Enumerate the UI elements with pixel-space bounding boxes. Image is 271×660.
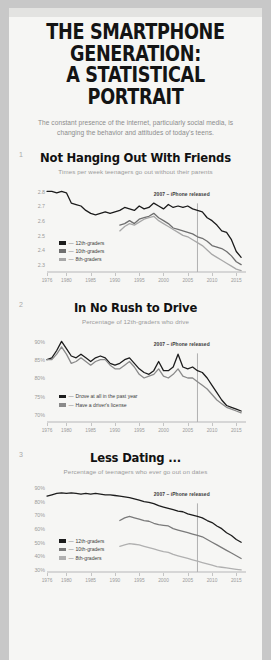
legend-label: 10th-graders: [76, 247, 105, 255]
x-tick-mark: [188, 573, 189, 576]
legend-swatch-icon: [59, 403, 66, 407]
chart-section-2: 2 In No Rush to Drive Percentage of 12th…: [9, 301, 262, 438]
section-number-1: 1: [19, 151, 23, 158]
legend-dash-icon: —: [68, 545, 73, 553]
chart-legend: —Drove at all in the past year—Have a dr…: [59, 392, 138, 409]
chart-title-3: Less Dating ...: [17, 451, 254, 465]
section-number-3: 3: [19, 451, 23, 458]
legend-item: —10th-graders: [59, 545, 104, 553]
y-tick-label: 80%: [34, 375, 45, 381]
legend-dash-icon: —: [68, 537, 73, 545]
x-tick-label: 2000: [158, 578, 169, 583]
legend-swatch-icon: [59, 249, 66, 253]
x-tick-mark: [212, 273, 213, 276]
legend-swatch-icon: [59, 548, 66, 552]
x-tick-mark: [163, 423, 164, 426]
legend-label: Drove at all in the past year: [76, 392, 138, 400]
legend-item: —10th-graders: [59, 247, 104, 255]
y-axis-3: 90%80%70%60%50%40%30%: [17, 484, 45, 572]
x-tick-label: 1995: [134, 428, 145, 433]
y-tick-label: 70%: [34, 512, 45, 518]
legend-dash-icon: —: [68, 392, 73, 400]
x-tick-label: 1995: [134, 578, 145, 583]
x-tick-label: 1980: [61, 278, 72, 283]
x-tick-mark: [212, 573, 213, 576]
chart-canvas-1: 2007 – iPhone released—12th-graders—10th…: [47, 184, 246, 272]
chart-plot-area-1: 2.82.72.62.52.42.3 2007 – iPhone release…: [17, 184, 254, 288]
y-tick-label: 2.4: [38, 247, 45, 253]
chart-subtitle-2: Percentage of 12th-graders who drive: [17, 318, 254, 325]
x-tick-label: 1985: [85, 278, 96, 283]
x-tick-mark: [188, 423, 189, 426]
x-tick-label: 1980: [61, 428, 72, 433]
y-tick-label: 2.6: [38, 218, 45, 224]
x-tick-mark: [91, 573, 92, 576]
chart-legend: —12th-graders—10th-graders—8th-graders: [59, 537, 104, 562]
chart-plot-area-2: 90%85%80%75%70% 2007 – iPhone released—D…: [17, 334, 254, 438]
page-title: THE SMARTPHONE GENERATION: A STATISTICAL…: [35, 22, 235, 109]
y-tick-label: 60%: [34, 526, 45, 532]
x-tick-label: 1976: [42, 578, 53, 583]
x-tick-mark: [139, 273, 140, 276]
x-tick-mark: [47, 573, 48, 576]
legend-swatch-icon: [59, 241, 66, 245]
x-tick-mark: [188, 273, 189, 276]
y-tick-label: 40%: [34, 553, 45, 559]
page-title-line-1: THE SMARTPHONE GENERATION:: [46, 20, 224, 66]
x-tick-label: 2000: [158, 278, 169, 283]
y-tick-label: 80%: [34, 499, 45, 505]
y-axis-1: 2.82.72.62.52.42.3: [17, 184, 45, 272]
series-line: [120, 544, 241, 570]
legend-label: 10th-graders: [76, 545, 105, 553]
chart-title-1: Not Hanging Out With Friends: [17, 151, 254, 165]
series-line: [47, 493, 241, 542]
x-tick-mark: [66, 573, 67, 576]
legend-swatch-icon: [59, 395, 66, 399]
legend-dash-icon: —: [68, 255, 73, 263]
y-tick-label: 50%: [34, 540, 45, 546]
y-tick-label: 2.5: [38, 233, 45, 239]
iphone-annotation-label: 2007 – iPhone released: [154, 342, 210, 347]
y-tick-label: 70%: [34, 412, 45, 418]
iphone-annotation-label: 2007 – iPhone released: [154, 192, 210, 197]
x-axis-3: 197619801985199019952000200520102015: [47, 573, 246, 588]
legend-label: 12th-graders: [76, 537, 105, 545]
legend-item: —8th-graders: [59, 554, 104, 562]
y-axis-2: 90%85%80%75%70%: [17, 334, 45, 422]
section-number-2: 2: [19, 301, 23, 308]
chart-canvas-2: 2007 – iPhone released—Drove at all in t…: [47, 334, 246, 422]
x-tick-mark: [212, 423, 213, 426]
chart-legend: —12th-graders—10th-graders—8th-graders: [59, 239, 104, 264]
x-tick-label: 2000: [158, 428, 169, 433]
x-tick-label: 1990: [110, 428, 121, 433]
x-tick-mark: [163, 573, 164, 576]
x-tick-mark: [66, 273, 67, 276]
x-tick-label: 2005: [182, 278, 193, 283]
y-tick-label: 85%: [34, 357, 45, 363]
x-tick-label: 2005: [182, 578, 193, 583]
chart-subtitle-1: Times per week teenagers go out without …: [17, 168, 254, 175]
chart-canvas-3: 2007 – iPhone released—12th-graders—10th…: [47, 484, 246, 572]
series-line: [120, 214, 241, 265]
x-tick-label: 2015: [231, 428, 242, 433]
y-tick-label: 2.8: [38, 189, 45, 195]
x-tick-mark: [47, 273, 48, 276]
x-tick-mark: [66, 423, 67, 426]
legend-dash-icon: —: [68, 401, 73, 409]
chart-section-1: 1 Not Hanging Out With Friends Times per…: [9, 151, 262, 288]
chart-plot-area-3: 90%80%70%60%50%40%30% 2007 – iPhone rele…: [17, 484, 254, 588]
x-tick-mark: [236, 273, 237, 276]
x-tick-label: 1976: [42, 278, 53, 283]
x-tick-mark: [236, 573, 237, 576]
legend-dash-icon: —: [68, 554, 73, 562]
legend-label: Have a driver's license: [76, 401, 127, 409]
x-tick-label: 1976: [42, 428, 53, 433]
y-tick-label: 2.7: [38, 203, 45, 209]
legend-dash-icon: —: [68, 247, 73, 255]
y-tick-label: 75%: [34, 394, 45, 400]
y-tick-label: 90%: [34, 339, 45, 345]
page-title-line-2: A STATISTICAL PORTRAIT: [66, 63, 205, 109]
x-tick-label: 1990: [110, 278, 121, 283]
x-tick-label: 1995: [134, 278, 145, 283]
x-tick-mark: [47, 423, 48, 426]
